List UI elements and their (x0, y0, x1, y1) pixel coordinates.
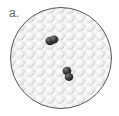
white-spheres (0, 0, 119, 116)
sphere-field-illustration (0, 0, 119, 116)
